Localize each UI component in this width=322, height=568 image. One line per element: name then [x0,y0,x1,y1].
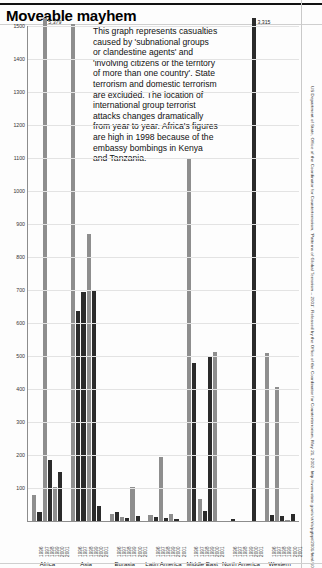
bar [169,514,173,521]
gridline [28,158,299,159]
x-group-labels: 199619971998199920002001Africa [28,523,67,563]
clipped-bar-value-label: 3,315 [258,19,271,25]
bar [252,18,256,521]
bar [198,499,202,521]
bar [97,506,101,521]
bar [43,18,47,521]
gridline [28,389,299,390]
bar [291,514,295,521]
x-axis-year-label: 1998 [89,546,94,557]
bar [280,516,284,521]
top-divider [0,3,322,5]
x-axis-year-label: 1996 [194,546,199,557]
bar [130,487,134,521]
gridline [28,356,299,357]
x-axis-region-label: Middle East [183,561,222,568]
x-axis-year-label: 1999 [133,546,138,557]
bar [192,363,196,521]
x-axis-year-label: 1999 [249,546,254,557]
bar [136,516,140,521]
y-axis-tick-label: 1500 [13,23,25,29]
x-axis-year-label: 2000 [293,546,298,557]
x-axis-year-label: 1999 [94,546,99,557]
bar-group: 5,379 [28,26,67,521]
bar [265,353,269,521]
x-axis-year-label: 1996 [272,546,277,557]
bar [154,517,158,521]
x-axis-region-label: North America [222,561,261,568]
clipped-bar-value-label: 5,379 [48,19,61,25]
bar [187,159,191,521]
x-axis-line [27,521,299,522]
gridline [28,257,299,258]
gridline [28,26,299,27]
bar [37,512,41,521]
x-axis-region-label: Eurasia [105,561,144,568]
chart-page: Moveable mayhem This graph represents ca… [0,0,322,568]
bar [285,520,289,521]
y-axis-tick-label: 400 [16,386,25,392]
bar-group [144,26,183,521]
bar-group [105,26,144,521]
bottom-divider [0,563,322,564]
x-group-labels: 199619971998199920002001Asia [67,523,106,563]
gridline [28,422,299,423]
bar-group [67,26,106,521]
gridline [28,92,299,93]
bar [81,292,85,521]
x-group-labels: 199619971998199920002001Eurasia [105,523,144,563]
x-axis-year-label: 1997 [84,546,89,557]
bar [76,311,80,521]
bar-series-container: 5,3793,315 [28,26,299,521]
bar [92,290,96,521]
bar [87,234,91,521]
y-axis-tick-label: 200 [16,452,25,458]
x-axis-year-label: 1997 [45,546,50,557]
bar [164,518,168,521]
x-axis-year-label: 2000 [138,546,143,557]
bar [71,24,75,521]
bar [148,515,152,521]
bar [125,518,129,521]
bar-group: 3,315 [222,26,261,521]
y-axis-tick-label: 300 [16,419,25,425]
bar [174,519,178,521]
y-axis-tick-label: 1100 [14,155,25,161]
y-axis-tick-label: 1300 [13,89,25,95]
y-axis-tick-label: 500 [16,353,25,359]
gridline [28,290,299,291]
x-axis-year-label: 1996 [156,546,161,557]
x-group-labels: 199619971998199920002001Western Europe [260,523,299,563]
bar [58,472,62,522]
bar [115,512,119,521]
x-group-labels: 199619971998199920002001Latin America [144,523,183,563]
gridline [28,191,299,192]
x-axis-year-label: 1998 [244,546,249,557]
gridline [28,488,299,489]
y-axis-tick-label: 800 [16,254,25,260]
x-group-labels: 199619971998199920002001Middle East [183,523,222,563]
bar-group [183,26,222,521]
bar [203,511,207,521]
y-axis-tick-label: 1400 [13,56,25,62]
y-axis-tick-label: 600 [16,320,25,326]
x-axis-region-label: Latin America [144,561,183,568]
bar [48,460,52,521]
bar [32,495,36,521]
gridline [28,455,299,456]
y-axis: 1002003004005006007008009001000110012001… [0,26,28,521]
gridline [28,224,299,225]
chart-plot-area: 1002003004005006007008009001000110012001… [0,26,300,568]
x-axis-year-label: 1996 [40,546,45,557]
y-axis-tick-label: 900 [16,221,25,227]
y-axis-tick-label: 100 [16,485,25,491]
x-axis-region-label: Africa [28,561,67,568]
gridline [28,59,299,60]
bar-group [260,26,299,521]
gridline [28,125,299,126]
bar [213,352,217,521]
x-axis-year-label: 1997 [200,546,205,557]
x-group-labels: 199619971998199920002001North America [222,523,261,563]
y-axis-tick-label: 1000 [13,188,25,194]
source-rail: US Department of State, Office of the Co… [301,0,322,568]
